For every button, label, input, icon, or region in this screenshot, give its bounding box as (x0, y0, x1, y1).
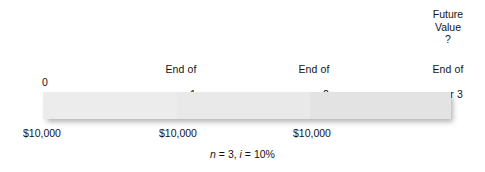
caption-n-value: = 3, (216, 148, 240, 160)
period-label-time-0-line-1: 0 (16, 76, 74, 89)
parameters-caption: n = 3, i = 10% (0, 148, 485, 161)
cash-flow-amount-year-2: $10,000 (159, 127, 197, 140)
cash-flow-amount-year-1: $10,000 (23, 127, 61, 140)
period-label-end-of-year-2-line-1: End of (283, 63, 345, 76)
caption-i-value: = 10% (242, 148, 275, 160)
future-value-callout: Future Value ? (417, 8, 479, 46)
future-value-line-2: Value (417, 21, 479, 34)
timeline-bar (43, 92, 451, 119)
future-value-question-mark: ? (417, 33, 479, 46)
future-value-line-1: Future (417, 8, 479, 21)
period-label-end-of-year-1-line-1: End of (150, 63, 212, 76)
timeline-segment-year-3 (310, 92, 451, 119)
cash-flow-amount-year-3: $10,000 (293, 127, 331, 140)
period-label-end-of-year-3-line-1: End of (417, 63, 479, 76)
timeline-segment-year-1 (43, 92, 177, 119)
future-value-timeline-figure: Future Value ? 0 End of year 1 End of ye… (0, 0, 485, 172)
timeline-segment-year-2 (177, 92, 310, 119)
